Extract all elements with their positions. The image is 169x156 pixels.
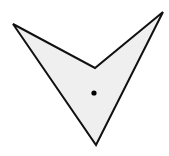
diagram-canvas: [0, 0, 169, 156]
interior-point: [91, 90, 96, 95]
diagram-svg: [0, 0, 169, 156]
dart-shape: [13, 12, 163, 145]
